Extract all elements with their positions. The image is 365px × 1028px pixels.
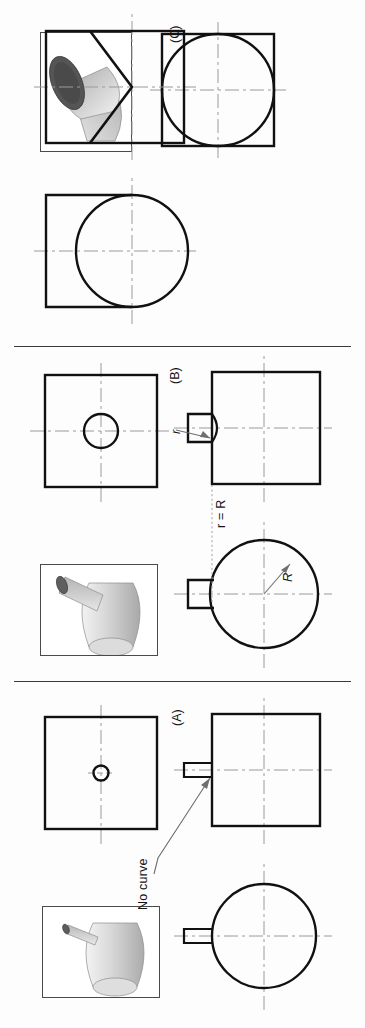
panel-c: (C) [0,0,365,345]
view-a-front-square-with-boss [180,704,326,836]
panel-a: (A) [0,686,365,1028]
view-c-top-rectangle-with-circle [40,186,190,316]
view-a-side-square-with-small-hole [40,712,162,834]
no-curve-note: No curve [136,858,150,910]
view-b-top-circle-with-boss [180,528,326,660]
view-a-top-circle-with-boss [180,870,326,1002]
divider-b-a [14,681,351,682]
view-c-front-rectangle-with-vee [40,22,190,152]
small-cylinder-on-large-cylinder-pictorial [43,906,160,997]
pictorial-b [40,564,158,656]
pictorial-a [42,906,160,998]
panel-a-content: (A) [18,692,348,1022]
small-radius-label: r [168,429,183,434]
medium-cylinder-on-large-cylinder-pictorial [41,564,158,655]
large-radius-label: R [280,572,295,582]
panel-c-content: (C) [18,8,348,338]
panel-b: (B) [0,350,365,680]
radius-equality-note: r = R [214,500,228,528]
view-b-side-square-with-circle [40,370,162,492]
panel-b-content: (B) [18,350,348,680]
divider-c-b [14,346,351,347]
figure-sheet: (C) [0,0,365,1028]
view-b-front-square-with-boss [180,362,326,494]
